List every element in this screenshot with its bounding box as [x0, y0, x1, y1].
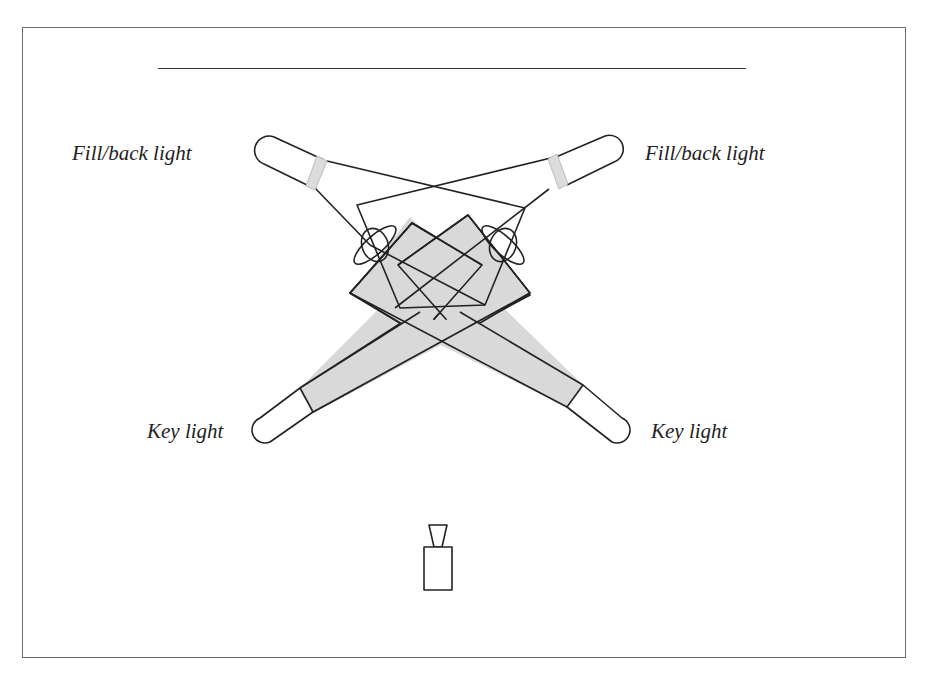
- label-key-right: Key light: [651, 421, 727, 442]
- label-key-left: Key light: [147, 421, 223, 442]
- fill-back-light-right-lamp: [548, 135, 623, 189]
- key-light-left-lamp: [252, 388, 313, 443]
- label-fill-back-right: Fill/back light: [645, 143, 765, 164]
- label-fill-back-left: Fill/back light: [72, 143, 192, 164]
- lighting-diagram: [0, 0, 928, 682]
- key-light-right-lamp: [567, 385, 630, 443]
- fill-back-light-left-lamp: [255, 136, 327, 190]
- camera-icon: [424, 525, 452, 590]
